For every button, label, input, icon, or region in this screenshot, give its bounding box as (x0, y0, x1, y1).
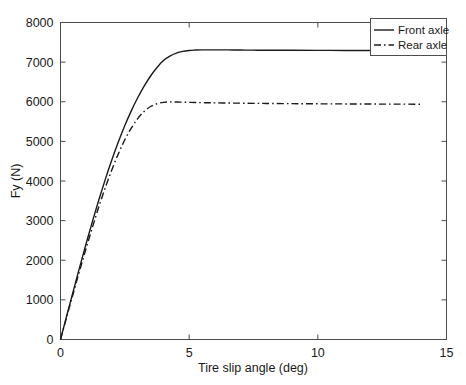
series-line-rear-axle (61, 102, 421, 340)
x-tick-label: 0 (57, 346, 64, 360)
y-tick-label: 4000 (26, 175, 54, 189)
y-axis-ticks (61, 23, 447, 340)
chart-figure: 010002000300040005000600070008000 051015… (0, 0, 466, 385)
x-tick-label: 5 (186, 346, 193, 360)
data-series-group (61, 50, 421, 340)
y-tick-label: 2000 (26, 254, 54, 268)
tire-force-chart: 010002000300040005000600070008000 051015… (0, 0, 466, 385)
y-tick-label: 3000 (26, 214, 54, 228)
x-tick-label: 10 (311, 346, 325, 360)
legend-label-front-axle: Front axle (398, 24, 449, 36)
y-tick-label: 0 (47, 333, 54, 347)
legend-label-rear-axle: Rear axle (398, 39, 447, 51)
y-tick-label: 8000 (26, 16, 54, 30)
x-axis-label: Tire slip angle (deg) (198, 361, 308, 375)
x-axis-ticks (61, 23, 447, 340)
chart-legend: Front axle Rear axle (371, 19, 450, 56)
y-axis-label: Fy (N) (9, 164, 23, 199)
y-tick-label: 6000 (26, 95, 54, 109)
x-axis-tick-labels: 051015 (57, 346, 453, 360)
y-tick-label: 7000 (26, 56, 54, 70)
y-axis-tick-labels: 010002000300040005000600070008000 (26, 16, 54, 347)
x-tick-label: 15 (440, 346, 454, 360)
plot-frame (61, 23, 447, 340)
y-tick-label: 1000 (26, 293, 54, 307)
y-tick-label: 5000 (26, 135, 54, 149)
series-line-front-axle (61, 50, 421, 340)
